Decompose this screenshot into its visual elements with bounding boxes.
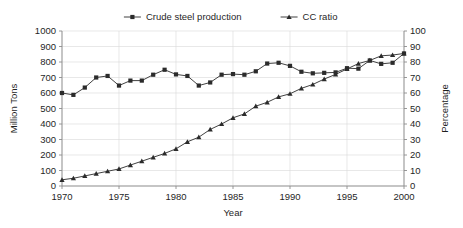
data-point xyxy=(83,85,87,89)
y-axis-right-tick-label: 30 xyxy=(410,134,421,145)
y-axis-right-tick-label: 80 xyxy=(410,56,421,67)
y-axis-left-tick-label: 100 xyxy=(40,165,56,176)
y-axis-left-label: Million Tons xyxy=(8,84,19,134)
data-point xyxy=(277,61,281,65)
chart-figure: 1970197519801985199019952000 01002003004… xyxy=(0,0,463,228)
data-point xyxy=(220,73,224,77)
y-axis-left-tick-label: 300 xyxy=(40,134,56,145)
data-point xyxy=(322,71,326,75)
data-point xyxy=(60,91,64,95)
data-point xyxy=(163,68,167,72)
x-axis-tick-label: 1975 xyxy=(108,191,129,202)
data-point xyxy=(288,64,292,68)
data-point xyxy=(196,135,201,140)
x-axis-tick-label: 1985 xyxy=(222,191,243,202)
grid-lines xyxy=(62,31,404,186)
data-point xyxy=(208,80,212,84)
data-point xyxy=(254,69,258,73)
x-axis-ticks: 1970197519801985199019952000 xyxy=(51,186,414,202)
y-axis-right-title: Percentage xyxy=(439,84,450,133)
y-axis-right-label: Percentage xyxy=(439,84,450,133)
y-axis-left-tick-label: 900 xyxy=(40,41,56,52)
data-point xyxy=(379,62,383,66)
x-axis-tick-label: 1995 xyxy=(336,191,357,202)
data-point xyxy=(242,73,246,77)
data-point xyxy=(106,74,110,78)
chart-canvas: 1970197519801985199019952000 01002003004… xyxy=(0,0,463,228)
y-axis-right-tick-label: 40 xyxy=(410,118,421,129)
data-point xyxy=(128,79,132,83)
data-point xyxy=(311,71,315,75)
y-axis-left-tick-label: 500 xyxy=(40,103,56,114)
x-axis-tick-label: 1970 xyxy=(51,191,72,202)
data-point xyxy=(71,93,75,97)
data-point xyxy=(174,72,178,76)
data-point xyxy=(197,83,201,87)
y-axis-right-tick-label: 10 xyxy=(410,165,421,176)
y-axis-right-tick-label: 20 xyxy=(410,149,421,160)
legend-label: CC ratio xyxy=(303,11,338,22)
data-point xyxy=(391,61,395,65)
x-axis-title: Year xyxy=(223,207,242,218)
data-point xyxy=(173,146,178,151)
legend-marker-square xyxy=(130,15,134,19)
y-axis-right-ticks: 0102030405060708090100 xyxy=(404,25,426,191)
data-point xyxy=(231,72,235,76)
y-axis-left-tick-label: 600 xyxy=(40,87,56,98)
data-point xyxy=(140,79,144,83)
y-axis-right-tick-label: 70 xyxy=(410,72,421,83)
y-axis-left-tick-label: 800 xyxy=(40,56,56,67)
y-axis-right-tick-label: 90 xyxy=(410,41,421,52)
y-axis-left-tick-label: 0 xyxy=(51,180,56,191)
data-point xyxy=(185,74,189,78)
y-axis-right-tick-label: 60 xyxy=(410,87,421,98)
y-axis-right-tick-label: 0 xyxy=(410,180,415,191)
y-axis-left-title: Million Tons xyxy=(8,84,19,134)
y-axis-left-tick-label: 700 xyxy=(40,72,56,83)
data-point xyxy=(356,67,360,71)
x-axis-tick-label: 1980 xyxy=(165,191,186,202)
y-axis-right-tick-label: 50 xyxy=(410,103,421,114)
legend-label: Crude steel production xyxy=(146,11,242,22)
data-point xyxy=(287,91,292,96)
data-point xyxy=(208,127,213,132)
legend-item-crude-steel-production[interactable]: Crude steel production xyxy=(124,11,242,22)
data-point xyxy=(94,75,98,79)
data-point xyxy=(151,73,155,77)
data-point xyxy=(299,70,303,74)
y-axis-left-tick-label: 400 xyxy=(40,118,56,129)
data-point xyxy=(265,61,269,65)
x-axis-tick-label: 2000 xyxy=(393,191,414,202)
data-point xyxy=(265,100,270,105)
y-axis-left-tick-label: 200 xyxy=(40,149,56,160)
y-axis-left-ticks: 01002003004005006007008009001000 xyxy=(35,25,62,191)
x-axis-tick-label: 1990 xyxy=(279,191,300,202)
y-axis-right-tick-label: 100 xyxy=(410,25,426,36)
legend-item-cc-ratio[interactable]: CC ratio xyxy=(281,11,338,22)
y-axis-left-tick-label: 1000 xyxy=(35,25,56,36)
chart-legend: Crude steel productionCC ratio xyxy=(124,11,338,22)
x-axis-label: Year xyxy=(223,207,242,218)
data-point xyxy=(310,82,315,87)
data-point xyxy=(242,111,247,116)
data-point xyxy=(117,83,121,87)
